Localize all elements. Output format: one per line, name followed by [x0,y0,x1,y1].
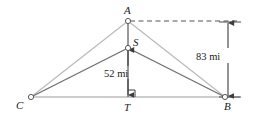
geometry-figure: A S T C B 52 mi 83 mi [0,0,258,120]
dimension-label-83mi: 83 mi [196,52,220,63]
point-label-b: B [224,101,231,112]
vertex-node-c [28,94,33,99]
point-label-c: C [16,100,23,111]
point-label-s: S [133,37,139,48]
vertex-node-b [222,94,227,99]
segment-c-to-a [31,21,128,97]
vertex-node-a [125,18,130,23]
vertex-node-s [125,45,130,50]
point-label-a: A [124,5,131,16]
right-angle-marker [128,90,135,97]
dimension-label-52mi: 52 mi [104,69,128,80]
point-label-t: T [124,102,130,113]
